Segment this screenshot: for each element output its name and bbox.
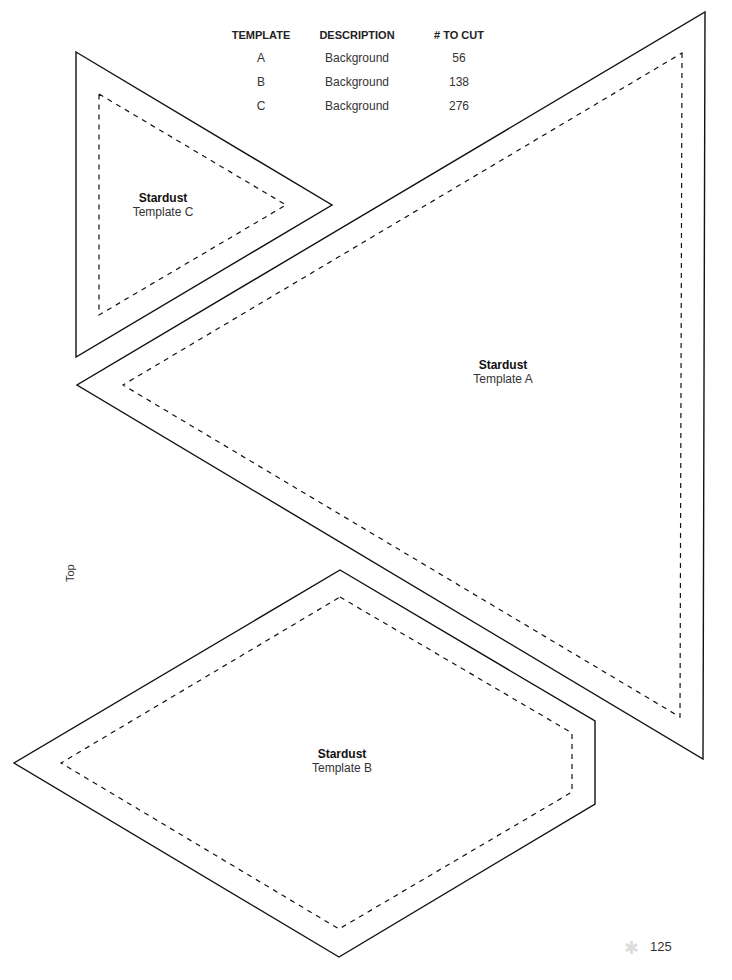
cell-count: 138: [414, 70, 504, 94]
page-number: 125: [650, 939, 672, 954]
template-a-seam: [123, 53, 682, 717]
template-b-name: Stardust: [292, 747, 392, 761]
template-a-label: Stardust Template A: [453, 358, 553, 386]
star-icon: ✱: [624, 937, 639, 959]
cell-template: A: [222, 46, 300, 70]
cutting-table: TEMPLATE DESCRIPTION # TO CUT A Backgrou…: [222, 24, 504, 118]
template-b-title: Template B: [292, 761, 392, 775]
table-row: B Background 138: [222, 70, 504, 94]
template-c-label: Stardust Template C: [113, 191, 213, 219]
header-template: TEMPLATE: [222, 24, 300, 46]
table-row: C Background 276: [222, 94, 504, 118]
template-a-outline: [77, 12, 705, 759]
cell-count: 276: [414, 94, 504, 118]
cell-description: Background: [300, 94, 414, 118]
cell-count: 56: [414, 46, 504, 70]
template-c-title: Template C: [113, 205, 213, 219]
cell-description: Background: [300, 46, 414, 70]
header-description: DESCRIPTION: [300, 24, 414, 46]
cell-description: Background: [300, 70, 414, 94]
template-b-label: Stardust Template B: [292, 747, 392, 775]
template-shapes: [0, 0, 732, 980]
orientation-label: Top: [64, 564, 76, 582]
header-count: # TO CUT: [414, 24, 504, 46]
table-row: A Background 56: [222, 46, 504, 70]
template-c-name: Stardust: [113, 191, 213, 205]
cell-template: C: [222, 94, 300, 118]
template-a-title: Template A: [453, 372, 553, 386]
template-a-name: Stardust: [453, 358, 553, 372]
cell-template: B: [222, 70, 300, 94]
